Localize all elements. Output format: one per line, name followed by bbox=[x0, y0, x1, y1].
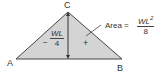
area-prefix: Area = bbox=[105, 21, 129, 30]
triangle-area bbox=[16, 12, 122, 59]
triangle-diagram bbox=[0, 0, 158, 74]
area-denominator: 8 bbox=[143, 27, 147, 36]
vertex-c-label: C bbox=[64, 1, 71, 10]
vertex-b-label: B bbox=[117, 64, 123, 73]
area-numerator: WL2 bbox=[137, 16, 154, 27]
left-numerator: WL bbox=[50, 30, 64, 39]
vertex-a-label: A bbox=[7, 59, 13, 68]
left-denominator: 4 bbox=[55, 39, 59, 48]
minus-sign: − bbox=[43, 38, 48, 47]
plus-sign: + bbox=[83, 39, 88, 48]
left-moment-fraction: WL 4 bbox=[50, 30, 64, 48]
area-exponent: 2 bbox=[150, 15, 153, 21]
area-fraction: WL2 8 bbox=[137, 16, 154, 36]
area-numerator-text: WL bbox=[138, 17, 150, 26]
